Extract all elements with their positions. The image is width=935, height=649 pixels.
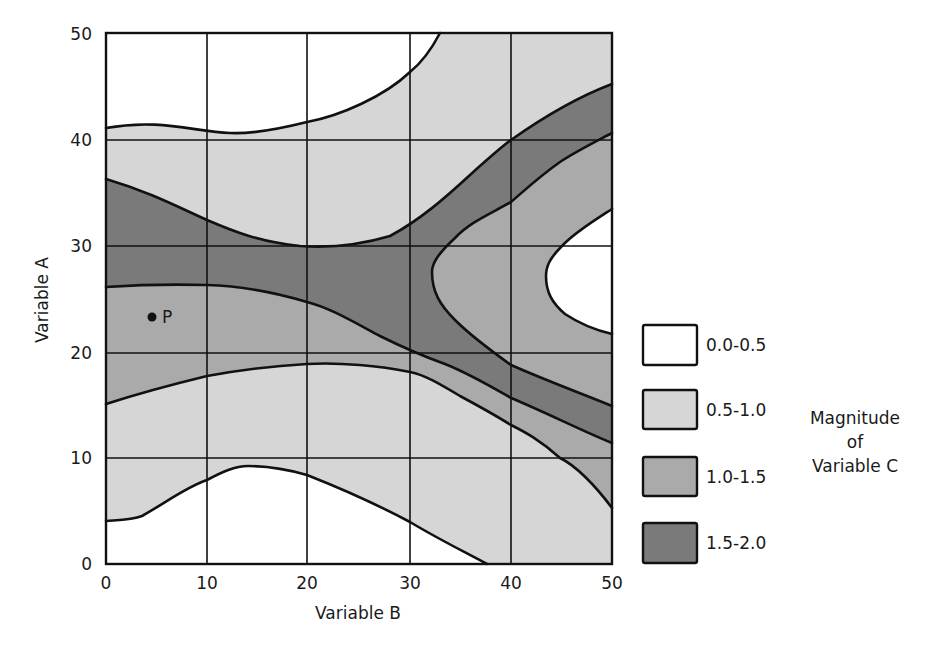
svg-text:0: 0 <box>81 554 92 574</box>
legend-swatch-0 <box>643 325 697 365</box>
svg-text:30: 30 <box>399 573 421 593</box>
x-axis-ticks: 0 10 20 30 40 50 <box>101 573 623 593</box>
svg-text:20: 20 <box>296 573 318 593</box>
y-axis-label: Variable A <box>32 257 52 343</box>
svg-text:40: 40 <box>500 573 522 593</box>
svg-text:30: 30 <box>70 236 92 256</box>
legend-swatch-3 <box>643 523 697 563</box>
legend-title-line-3: Variable C <box>812 456 898 476</box>
contour-chart: P 0 10 20 30 40 50 Variable B 0 10 20 30… <box>0 0 935 649</box>
svg-text:50: 50 <box>70 24 92 44</box>
x-axis-label: Variable B <box>315 603 401 623</box>
legend-label-2: 1.0-1.5 <box>706 467 766 487</box>
point-p-marker <box>148 313 157 322</box>
legend-title-line-1: Magnitude <box>810 408 900 428</box>
svg-text:10: 10 <box>196 573 218 593</box>
legend-label-0: 0.0-0.5 <box>706 335 766 355</box>
point-p-label: P <box>162 307 172 327</box>
svg-text:50: 50 <box>601 573 623 593</box>
legend-label-3: 1.5-2.0 <box>706 533 766 553</box>
y-axis-ticks: 0 10 20 30 40 50 <box>70 24 92 574</box>
svg-text:20: 20 <box>70 343 92 363</box>
legend-label-1: 0.5-1.0 <box>706 400 766 420</box>
legend-swatch-2 <box>643 457 697 496</box>
legend: 0.0-0.5 0.5-1.0 1.0-1.5 1.5-2.0 Magnitud… <box>643 325 900 563</box>
svg-text:10: 10 <box>70 448 92 468</box>
svg-text:0: 0 <box>101 573 112 593</box>
svg-text:40: 40 <box>70 130 92 150</box>
legend-title-line-2: of <box>847 432 864 452</box>
legend-swatch-1 <box>643 390 697 429</box>
